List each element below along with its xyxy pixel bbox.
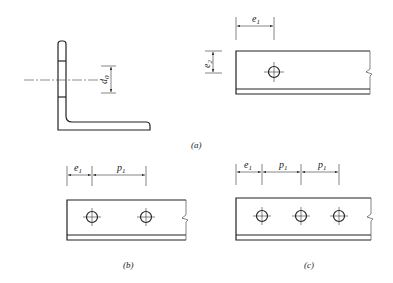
p1-label-b: p1 bbox=[116, 162, 126, 175]
e1-label-c: e1 bbox=[244, 159, 252, 172]
d0-label: d0 bbox=[98, 75, 111, 84]
caption-a: (a) bbox=[191, 140, 202, 150]
plate-two-holes: e1 p1 bbox=[67, 162, 188, 240]
e1-label: e1 bbox=[252, 13, 260, 26]
bolt-spacing-diagram: d0 e1 e2 (a) e1 p1 (b) bbox=[0, 0, 393, 283]
plate-three-holes: e1 p1 p1 bbox=[236, 159, 373, 240]
p1-label-c1: p1 bbox=[278, 159, 288, 172]
caption-b: (b) bbox=[123, 260, 134, 270]
e2-label: e2 bbox=[201, 60, 214, 68]
p1-label-c2: p1 bbox=[317, 159, 327, 172]
plate-one-hole: e1 e2 bbox=[201, 13, 372, 94]
e1-label-b: e1 bbox=[74, 162, 82, 175]
angle-section: d0 bbox=[24, 41, 150, 130]
caption-c: (c) bbox=[304, 260, 314, 270]
